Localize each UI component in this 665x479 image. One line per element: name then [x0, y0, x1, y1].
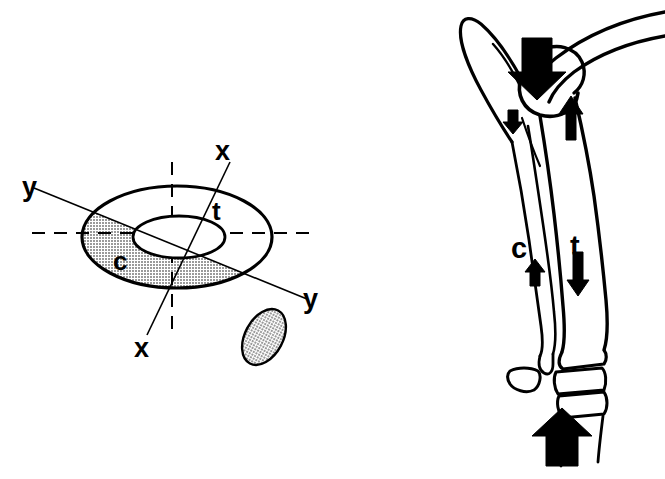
arrow-fibula-up [525, 259, 545, 286]
panel-lower-limb-loading: c t [0, 0, 665, 479]
lateral-malleolus [539, 354, 553, 374]
bone-label-t: t [570, 230, 580, 262]
interosseous-detail [522, 118, 540, 166]
fibula-medial-border [528, 126, 555, 354]
bone-label-c: c [511, 232, 527, 264]
tibia-anterior-border [575, 98, 607, 350]
medial-malleolus [559, 350, 606, 369]
femur-outline-lower [549, 36, 665, 102]
figure-canvas: y y x x t c [0, 0, 665, 479]
talus-bone [554, 368, 605, 394]
calcaneus-bone [508, 368, 540, 392]
